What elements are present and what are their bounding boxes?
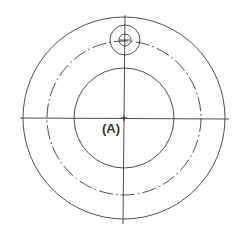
center-label: (A) xyxy=(102,121,120,136)
technical-drawing xyxy=(0,0,240,235)
center-mark xyxy=(121,115,127,121)
